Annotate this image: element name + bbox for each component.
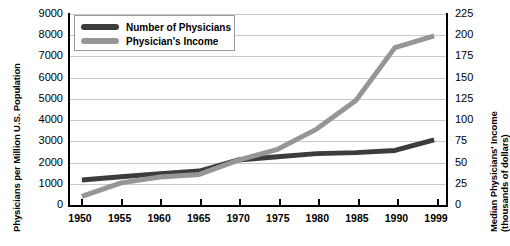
legend-label-number-of-physicians: Number of Physicians	[126, 22, 231, 33]
y-axis-left-tick-label: 9000	[20, 8, 63, 19]
y-axis-right-tick-label: 100	[455, 114, 489, 125]
y-axis-left-tick-label: 1000	[20, 178, 63, 189]
y-axis-left-tick-label: 5000	[20, 93, 63, 104]
y-axis-left-tick-label: 8000	[20, 29, 63, 40]
y-axis-left-tick-label: 7000	[20, 50, 63, 61]
y-axis-right-tick-label: 225	[455, 8, 489, 19]
legend-swatch-gray	[81, 38, 119, 44]
y-axis-right-tick-label: 175	[455, 50, 489, 61]
chart-container: Physicians per Million U.S. Population M…	[0, 0, 510, 246]
y-axis-right-tick-label: 75	[455, 135, 489, 146]
legend-item-number-of-physicians: Number of Physicians	[81, 20, 228, 34]
x-axis-tick-label: 1999	[413, 213, 459, 224]
legend-label-physicians-income: Physician's Income	[126, 36, 218, 47]
y-axis-left-tick-label: 0	[20, 199, 63, 210]
y-axis-right-title-line2: (thousands of dollars)	[499, 134, 510, 232]
y-axis-left-tick-label: 2000	[20, 157, 63, 168]
y-axis-left-tick-label: 6000	[20, 72, 63, 83]
y-axis-right-tick-label: 125	[455, 93, 489, 104]
y-axis-right-tick-label: 25	[455, 178, 489, 189]
y-axis-right-title-line1: Median Physicians' Income	[488, 111, 499, 232]
legend-item-physicians-income: Physician's Income	[81, 34, 228, 48]
y-axis-right-tick-label: 0	[455, 199, 489, 210]
legend-swatch-dark	[81, 24, 119, 30]
y-axis-left-tick-label: 3000	[20, 135, 63, 146]
chart-legend: Number of Physicians Physician's Income	[74, 15, 235, 51]
y-axis-right-tick-label: 50	[455, 157, 489, 168]
y-axis-left-tick-label: 4000	[20, 114, 63, 125]
series-line-number-of-physicians	[82, 140, 434, 180]
y-axis-right-tick-label: 200	[455, 29, 489, 40]
y-axis-right-tick-label: 150	[455, 72, 489, 83]
series-line-physicians-income	[82, 36, 434, 196]
